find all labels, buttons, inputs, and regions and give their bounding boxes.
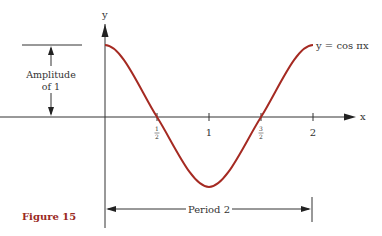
x-axis-arrow-icon [344, 114, 356, 121]
tick-label-one: 1 [206, 127, 212, 138]
arrow-up-icon [48, 46, 54, 55]
y-axis-label: y [101, 9, 108, 20]
y-axis-arrow-icon [102, 24, 109, 37]
amplitude-label-line2: of 1 [42, 81, 60, 92]
tick-label-three-half-num: 3 [259, 125, 263, 132]
amplitude-label-line1: Amplitude [25, 69, 76, 80]
tick-label-three-half-den: 2 [259, 133, 263, 140]
cosine-figure: y x 1 2 1 3 2 2 y = cos πx Amplitude of … [0, 0, 382, 236]
tick-label-half-num: 1 [155, 125, 159, 132]
figure-caption: Figure 15 [22, 211, 76, 222]
tick-label-half-den: 2 [155, 133, 159, 140]
arrow-right-icon [301, 206, 311, 212]
curve-label: y = cos πx [315, 40, 369, 51]
arrow-left-icon [106, 206, 116, 212]
tick-label-two: 2 [310, 127, 316, 138]
period-label: Period 2 [188, 204, 230, 215]
x-axis-label: x [360, 111, 366, 122]
arrow-down-icon [48, 107, 54, 116]
